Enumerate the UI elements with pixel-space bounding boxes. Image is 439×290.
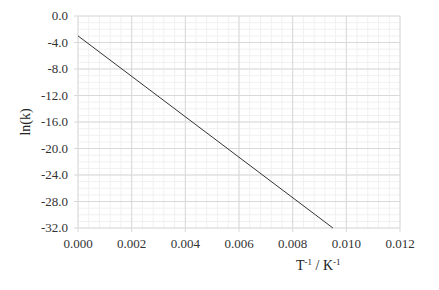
x-axis-title-sup: -1 xyxy=(305,257,313,267)
y-tick-label: -16.0 xyxy=(41,114,68,129)
x-axis-title-unit-sup: -1 xyxy=(333,257,341,267)
x-axis-title: T-1 / K-1 xyxy=(296,257,341,273)
y-tick-label: -8.0 xyxy=(47,61,68,76)
data-series xyxy=(78,36,333,228)
y-tick-label: -20.0 xyxy=(41,141,68,156)
x-axis-tick-labels: 0.0000.0020.0040.0060.0080.0100.012 xyxy=(63,236,414,251)
y-axis-tick-labels: 0.0-4.0-8.0-12.0-16.0-20.0-24.0-28.0-32.… xyxy=(41,8,68,235)
x-tick-label: 0.004 xyxy=(171,236,201,251)
y-axis-title: ln(k) xyxy=(18,108,34,136)
x-axis-title-unit: / K xyxy=(312,258,333,273)
y-tick-label: -28.0 xyxy=(41,194,68,209)
x-tick-label: 0.008 xyxy=(278,236,307,251)
x-tick-label: 0.000 xyxy=(63,236,92,251)
series-line xyxy=(78,36,333,228)
y-tick-label: -24.0 xyxy=(41,167,68,182)
x-tick-label: 0.012 xyxy=(385,236,414,251)
y-tick-label: -32.0 xyxy=(41,220,68,235)
chart: 0.0-4.0-8.0-12.0-16.0-20.0-24.0-28.0-32.… xyxy=(0,0,439,290)
x-tick-label: 0.006 xyxy=(224,236,254,251)
y-tick-label: 0.0 xyxy=(52,8,68,23)
y-tick-label: -12.0 xyxy=(41,88,68,103)
x-tick-label: 0.010 xyxy=(332,236,361,251)
major-gridlines xyxy=(74,16,400,232)
x-tick-label: 0.002 xyxy=(117,236,146,251)
y-tick-label: -4.0 xyxy=(47,35,68,50)
